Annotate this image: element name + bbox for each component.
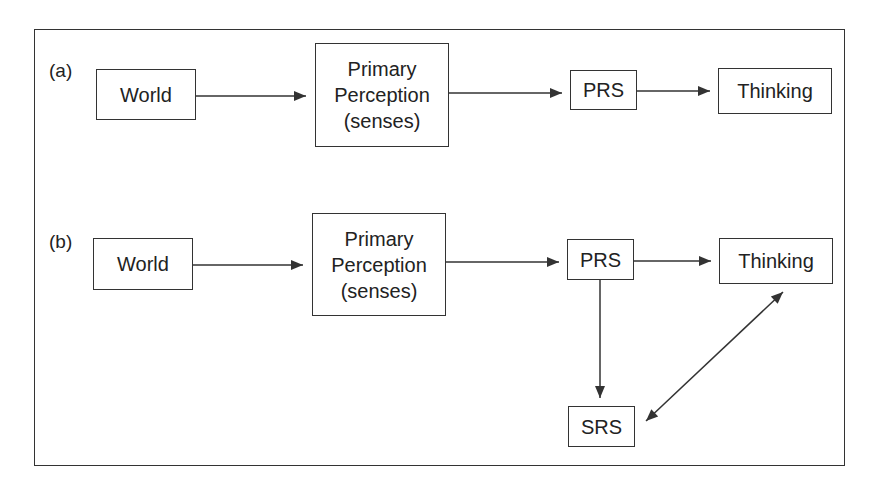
node-text: Primary Perception (senses) [334, 56, 430, 134]
panel-a-primary-perception-node: Primary Perception (senses) [315, 43, 449, 147]
panel-b-world-node: World [93, 238, 193, 290]
node-text: Thinking [738, 248, 814, 274]
node-text: Thinking [737, 78, 813, 104]
panel-a-thinking-node: Thinking [718, 68, 832, 114]
panel-a-world-node: World [96, 69, 196, 120]
panel-b-thinking-node: Thinking [719, 238, 833, 284]
node-text: PRS [583, 77, 624, 103]
node-text: World [117, 251, 169, 277]
panel-b-srs-node: SRS [568, 406, 635, 447]
panel-a-label: (a) [49, 60, 72, 82]
node-text: SRS [581, 414, 622, 440]
node-text: PRS [580, 247, 621, 273]
panel-b-prs-node: PRS [567, 239, 634, 280]
panel-b-label: (b) [49, 231, 72, 253]
node-text: World [120, 82, 172, 108]
panel-a-prs-node: PRS [570, 70, 637, 110]
node-text: Primary Perception (senses) [331, 226, 427, 304]
panel-b-primary-perception-node: Primary Perception (senses) [312, 213, 446, 316]
